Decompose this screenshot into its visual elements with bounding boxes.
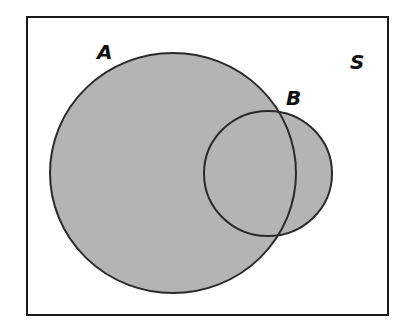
venn-diagram: A B S xyxy=(0,0,405,322)
universe-label: S xyxy=(350,50,364,74)
set-b-label: B xyxy=(286,86,301,110)
set-a-label: A xyxy=(95,40,112,64)
